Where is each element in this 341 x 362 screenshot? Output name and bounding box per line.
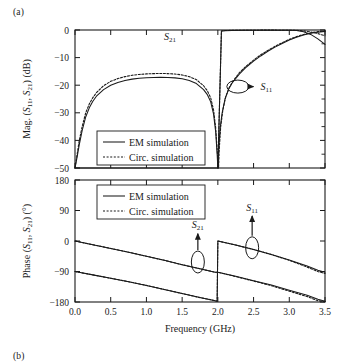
chart-svg: 0−10−20−30−40−50Mag. (S11, S21) (dB)EM s… — [0, 0, 341, 362]
y-tick-label: −10 — [54, 53, 69, 63]
annotation-label: S21 — [164, 31, 177, 44]
x-tick-label: 0.0 — [69, 307, 81, 317]
y-tick-label: −30 — [54, 108, 69, 118]
x-tick-label: 2.5 — [248, 307, 260, 317]
annotation-ellipse — [191, 251, 204, 273]
phase-panel: 0.00.51.01.52.02.53.03.5180900−90−180Pha… — [21, 176, 331, 336]
svg-text:Phase (S11, S21) (°): Phase (S11, S21) (°) — [21, 204, 34, 278]
y-axis-title: Phase (S11, S21) (°) — [21, 204, 34, 278]
y-tick-label: 0 — [64, 237, 69, 247]
y-tick-label: 180 — [55, 176, 70, 186]
y-tick-label: −50 — [54, 164, 69, 174]
series-line — [75, 241, 325, 301]
magnitude-panel: 0−10−20−30−40−50Mag. (S11, S21) (dB)EM s… — [21, 26, 325, 174]
legend-label: EM simulation — [129, 191, 189, 202]
x-tick-label: 1.5 — [176, 307, 188, 317]
annotation-label: S11 — [246, 202, 258, 215]
x-axis-title: Frequency (GHz) — [165, 323, 235, 335]
series-line — [75, 241, 325, 302]
x-tick-label: 0.5 — [105, 307, 117, 317]
y-tick-label: 0 — [64, 26, 69, 36]
y-tick-label: −90 — [54, 267, 69, 277]
x-tick-label: 3.0 — [283, 307, 295, 317]
y-tick-label: −20 — [54, 81, 69, 91]
annotation-label: S21 — [192, 219, 205, 232]
svg-text:Mag. (S11, S21) (dB): Mag. (S11, S21) (dB) — [21, 59, 34, 139]
series-line — [75, 241, 325, 301]
y-tick-label: −40 — [54, 136, 69, 146]
legend-label: Circ. simulation — [129, 152, 193, 163]
x-tick-label: 2.0 — [212, 307, 224, 317]
legend-label: EM simulation — [129, 137, 189, 148]
y-tick-label: 90 — [60, 206, 70, 216]
series-line — [75, 241, 325, 301]
y-tick-label: −180 — [49, 298, 69, 308]
series-line — [218, 30, 325, 168]
legend-label: Circ. simulation — [129, 206, 193, 217]
x-tick-label: 1.0 — [140, 307, 152, 317]
annotation-label: S11 — [261, 81, 273, 94]
x-tick-label: 3.5 — [319, 307, 331, 317]
y-axis-title: Mag. (S11, S21) (dB) — [21, 59, 34, 139]
figure-container: (a) (b) 0−10−20−30−40−50Mag. (S11, S21) … — [0, 0, 341, 362]
